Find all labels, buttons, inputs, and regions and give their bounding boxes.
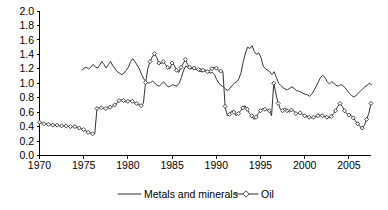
series-metals-and-minerals [82,46,372,97]
y-tick-label: 0.8 [19,91,34,103]
x-tick-label: 2000 [293,159,317,171]
oil-data-marker [108,105,112,109]
oil-data-marker [267,109,271,113]
oil-data-marker [104,107,108,111]
y-tick-label: 1.2 [19,62,34,74]
legend-label-oil: Oil [261,188,274,200]
y-tick-label: 2.0 [19,5,34,17]
oil-data-marker [320,114,324,118]
oil-data-marker [223,104,227,108]
x-tick-label: 1995 [249,159,273,171]
oil-data-marker [77,126,81,130]
oil-data-marker [91,132,95,136]
commodity-price-index-chart: 0.00.20.40.60.81.01.21.41.61.82.0 197019… [0,0,388,210]
oil-data-marker [307,115,311,119]
oil-data-marker [263,107,267,111]
y-tick-label: 1.4 [19,48,34,60]
oil-line [40,54,372,134]
y-tick-label: 1.0 [19,77,34,89]
oil-data-marker [95,107,99,111]
oil-data-marker [272,81,276,85]
x-tick-label: 1980 [116,159,140,171]
oil-data-marker [126,99,130,103]
oil-data-marker [68,125,72,129]
x-tick-label: 1970 [28,159,52,171]
y-tick-label: 0.4 [19,120,34,132]
oil-data-marker [369,101,373,105]
oil-data-marker [157,61,161,65]
oil-data-marker [73,125,77,129]
x-tick-label: 1985 [160,159,184,171]
oil-data-marker [55,123,59,127]
oil-data-marker [325,115,329,119]
oil-data-marker [316,114,320,118]
series-oil [38,52,374,136]
oil-data-marker [99,106,103,110]
oil-data-marker [60,124,64,128]
y-tick-label: 1.6 [19,34,34,46]
legend-oil-diamond-icon [243,191,249,197]
oil-data-marker [148,60,152,64]
oil-data-marker [365,117,369,121]
x-tick-label: 2005 [337,159,361,171]
oil-data-marker [38,120,42,124]
y-axis-tick-labels: 0.00.20.40.60.81.01.21.41.61.82.0 [19,5,34,162]
y-tick-label: 1.8 [19,19,34,31]
y-tick-label: 0.6 [19,106,34,118]
oil-data-marker [46,122,50,126]
oil-data-marker [219,69,223,73]
oil-data-marker [42,122,46,126]
legend-label-metals: Metals and minerals [144,188,238,200]
x-tick-label: 1975 [72,159,96,171]
chart-legend: Metals and minerals Oil [118,188,274,200]
oil-markers [38,52,374,136]
oil-data-marker [64,124,68,128]
x-axis-tick-labels: 19701975198019851990199520002005 [28,159,361,171]
oil-data-marker [144,81,148,85]
metals-and-minerals-line [82,46,372,97]
y-tick-label: 0.2 [19,135,34,147]
oil-data-marker [276,101,280,105]
oil-data-marker [183,57,187,61]
oil-data-marker [51,123,55,127]
chart-container: 0.00.20.40.60.81.01.21.41.61.82.0 197019… [0,0,388,210]
x-tick-label: 1990 [205,159,229,171]
oil-data-marker [312,115,316,119]
